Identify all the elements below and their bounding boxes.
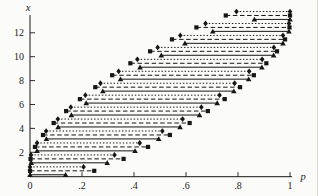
diamond-marker — [234, 9, 239, 15]
square-marker — [128, 61, 132, 65]
square-marker — [146, 145, 150, 149]
square-marker — [223, 97, 227, 101]
diamond-marker — [199, 104, 204, 110]
series-dotted-diamonds — [30, 12, 290, 167]
diamond-marker — [137, 140, 142, 146]
square-marker — [148, 49, 152, 53]
x-tick-label: .6 — [182, 180, 190, 191]
square-marker — [188, 121, 192, 125]
square-marker — [52, 121, 56, 125]
square-marker — [238, 85, 242, 89]
diamond-marker — [260, 56, 265, 62]
square-marker — [252, 73, 256, 77]
diamond-marker — [155, 44, 160, 50]
interval-staircase-figure: 0.2.4.6.8124681012xp — [0, 0, 317, 196]
diamond-marker — [116, 68, 121, 74]
square-marker — [224, 13, 228, 17]
square-marker — [287, 25, 291, 29]
square-marker — [28, 157, 32, 161]
square-marker — [283, 37, 287, 41]
diamond-marker — [98, 80, 103, 86]
square-marker — [93, 85, 97, 89]
diamond-marker — [203, 21, 208, 27]
diamond-marker — [83, 92, 88, 98]
y-tick-label: 2 — [19, 147, 24, 158]
diamond-marker — [160, 128, 165, 134]
y-axis-label: x — [25, 2, 31, 13]
diamond-marker — [135, 56, 140, 62]
chart-canvas: 0.2.4.6.8124681012xp — [0, 0, 317, 196]
x-tick-label: 0 — [28, 180, 33, 191]
diamond-marker — [247, 68, 252, 74]
diamond-marker — [81, 164, 86, 170]
y-tick-label: 12 — [14, 27, 24, 38]
x-tick-label: .8 — [234, 180, 242, 191]
square-marker — [64, 109, 68, 113]
diamond-marker — [112, 152, 117, 158]
x-tick-label: 1 — [288, 180, 293, 191]
square-marker — [92, 169, 96, 173]
series-dashed-squares — [30, 15, 290, 170]
y-tick-label: 4 — [19, 123, 24, 134]
square-marker — [78, 97, 82, 101]
square-marker — [33, 145, 37, 149]
square-marker — [264, 61, 268, 65]
square-marker — [206, 109, 210, 113]
y-tick-label: 8 — [19, 75, 24, 86]
square-marker — [110, 73, 114, 77]
square-marker — [170, 37, 174, 41]
diamond-marker — [217, 92, 222, 98]
square-marker — [122, 157, 126, 161]
square-marker — [275, 49, 279, 53]
square-marker — [41, 133, 45, 137]
diamond-marker — [56, 116, 61, 122]
diamond-marker — [232, 80, 237, 86]
x-axis-label: p — [299, 171, 305, 182]
x-tick-label: .4 — [130, 180, 138, 191]
y-tick-label: 10 — [14, 51, 24, 62]
series-solid-triangles — [30, 19, 290, 174]
diamond-marker — [69, 104, 74, 110]
diamond-marker — [178, 33, 183, 39]
y-tick-label: 6 — [19, 99, 24, 110]
square-marker — [194, 25, 198, 29]
square-marker — [168, 133, 172, 137]
x-tick-label: .2 — [78, 180, 86, 191]
diamond-marker — [180, 116, 185, 122]
